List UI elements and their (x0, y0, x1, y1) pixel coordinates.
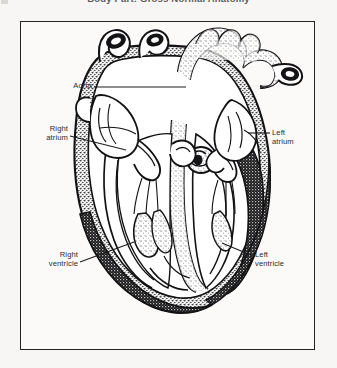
label-right-ventricle: Right ventricle (26, 250, 78, 269)
scan-edge-artifact (1, 0, 8, 4)
figure-page: Body Part: Gross Normal Anatomy (0, 0, 337, 368)
label-right-atrium: Right atrium (32, 124, 68, 143)
label-left-ventricle: Left ventricle (255, 250, 307, 269)
page-title-strip: Body Part: Gross Normal Anatomy (0, 0, 337, 6)
label-aorta: Aorta (62, 81, 92, 90)
label-left-atrium: Left atrium (272, 128, 316, 147)
page-title: Body Part: Gross Normal Anatomy (0, 0, 337, 4)
figure-frame (20, 21, 315, 350)
